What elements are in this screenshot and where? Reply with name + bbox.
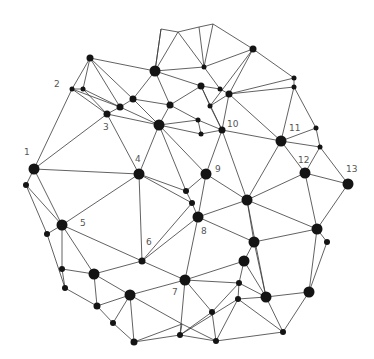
edge bbox=[222, 130, 281, 141]
node bbox=[304, 287, 315, 298]
edge bbox=[210, 49, 253, 106]
edge bbox=[139, 174, 186, 191]
edge bbox=[309, 242, 327, 292]
edge bbox=[155, 71, 201, 86]
node bbox=[218, 87, 223, 92]
node bbox=[213, 338, 219, 344]
node bbox=[250, 46, 257, 53]
node bbox=[167, 102, 174, 109]
edge-layer bbox=[26, 24, 348, 342]
edge bbox=[139, 174, 192, 203]
edge bbox=[142, 203, 192, 261]
edge bbox=[212, 312, 216, 341]
edge bbox=[199, 24, 213, 27]
edge bbox=[247, 200, 317, 229]
edge bbox=[206, 174, 247, 200]
node bbox=[235, 296, 241, 302]
node-5 bbox=[57, 220, 68, 231]
edge bbox=[161, 29, 178, 32]
edge bbox=[320, 147, 348, 184]
node bbox=[280, 329, 286, 335]
node bbox=[130, 96, 137, 103]
edge bbox=[65, 288, 97, 306]
edge bbox=[83, 89, 107, 114]
edge bbox=[222, 130, 247, 200]
node-label: 12 bbox=[298, 155, 309, 165]
node-label: 9 bbox=[215, 164, 221, 174]
node bbox=[177, 332, 183, 338]
node bbox=[154, 120, 165, 131]
node bbox=[208, 104, 213, 109]
node bbox=[198, 83, 205, 90]
edge bbox=[159, 125, 186, 191]
node bbox=[87, 55, 94, 62]
node-13 bbox=[343, 179, 354, 190]
edge bbox=[134, 335, 180, 342]
edge bbox=[180, 280, 185, 335]
node-2 bbox=[70, 87, 75, 92]
network-diagram: 12345678910111213 bbox=[0, 0, 374, 359]
edge bbox=[198, 174, 206, 217]
edge bbox=[83, 58, 90, 89]
edge bbox=[113, 323, 134, 342]
edge bbox=[139, 174, 142, 261]
edge bbox=[107, 114, 139, 174]
edge bbox=[159, 125, 201, 134]
edge bbox=[170, 86, 201, 105]
node bbox=[314, 126, 319, 131]
edge bbox=[170, 105, 198, 120]
edge bbox=[316, 128, 320, 147]
node-12 bbox=[300, 168, 311, 179]
edge bbox=[210, 106, 222, 130]
edge bbox=[107, 114, 159, 125]
edge bbox=[139, 125, 159, 174]
node bbox=[209, 309, 215, 315]
node-label: 2 bbox=[54, 79, 60, 89]
edge bbox=[229, 87, 294, 94]
edge bbox=[134, 324, 182, 342]
edge bbox=[159, 120, 198, 125]
edge bbox=[34, 169, 139, 174]
edge bbox=[155, 67, 204, 71]
edge bbox=[34, 114, 107, 169]
edge bbox=[130, 295, 134, 342]
edge bbox=[34, 89, 72, 169]
node bbox=[202, 65, 207, 70]
node bbox=[324, 239, 330, 245]
edge bbox=[254, 229, 317, 242]
node-label: 1 bbox=[24, 147, 30, 157]
node bbox=[312, 224, 323, 235]
node-1 bbox=[29, 164, 40, 175]
edge bbox=[34, 169, 62, 225]
node bbox=[249, 237, 260, 248]
node bbox=[150, 66, 161, 77]
node bbox=[318, 145, 323, 150]
node bbox=[94, 303, 101, 310]
edge bbox=[253, 49, 294, 78]
edge bbox=[178, 27, 199, 32]
edge bbox=[317, 184, 348, 229]
node bbox=[62, 285, 68, 291]
edge bbox=[120, 107, 159, 125]
node-label: 6 bbox=[146, 237, 152, 247]
edge bbox=[283, 292, 309, 332]
edge bbox=[159, 125, 206, 174]
edge bbox=[26, 185, 62, 225]
node bbox=[242, 195, 253, 206]
node bbox=[236, 280, 242, 286]
edge bbox=[266, 297, 283, 332]
node bbox=[199, 132, 204, 137]
edge bbox=[130, 295, 182, 324]
node bbox=[131, 339, 138, 346]
node bbox=[81, 87, 86, 92]
node bbox=[292, 76, 297, 81]
edge bbox=[305, 173, 317, 229]
node bbox=[261, 292, 272, 303]
edge bbox=[72, 89, 107, 114]
edge bbox=[155, 71, 170, 105]
node bbox=[23, 182, 29, 188]
edge bbox=[142, 261, 185, 280]
edge bbox=[62, 174, 139, 225]
node-label: 11 bbox=[289, 123, 300, 133]
edge bbox=[90, 58, 155, 71]
